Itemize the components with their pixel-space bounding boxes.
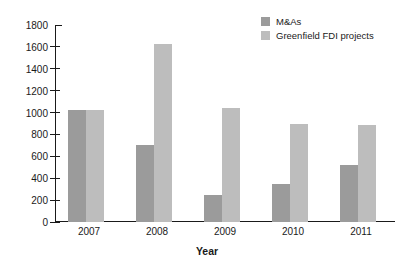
bar-group [259, 25, 327, 222]
bar-group [327, 25, 395, 222]
bar[interactable] [290, 124, 308, 222]
bar-group [123, 25, 191, 222]
x-axis-tick-label: 2011 [327, 226, 395, 237]
bar[interactable] [272, 184, 290, 222]
bar-group [191, 25, 259, 222]
bar[interactable] [136, 145, 154, 222]
y-axis-tick-label: 1200 [26, 85, 48, 96]
y-axis-tick-label: 800 [31, 129, 48, 140]
y-axis-tick-label: 1400 [26, 63, 48, 74]
y-axis-tick-label: 1800 [26, 20, 48, 31]
x-axis-tick-label: 2009 [191, 226, 259, 237]
y-axis-tick-label: 0 [42, 217, 48, 228]
y-axis-tick-label: 400 [31, 173, 48, 184]
bar[interactable] [358, 125, 376, 222]
plot-area: 020040060080010001200140016001800 200720… [55, 25, 395, 222]
y-axis-tick-label: 1000 [26, 107, 48, 118]
bar[interactable] [154, 44, 172, 222]
y-axis-tick-label: 1600 [26, 41, 48, 52]
x-axis-tick-label: 2008 [123, 226, 191, 237]
bar[interactable] [204, 195, 222, 222]
bar-chart: M&AsGreenfield FDI projects 020040060080… [0, 0, 414, 268]
bar[interactable] [222, 108, 240, 222]
bar-group [55, 25, 123, 222]
x-axis-title: Year [0, 245, 414, 257]
bar[interactable] [86, 110, 104, 222]
x-axis-tick-label: 2007 [55, 226, 123, 237]
bar[interactable] [340, 165, 358, 222]
bar[interactable] [68, 110, 86, 222]
y-axis-tick-label: 200 [31, 195, 48, 206]
y-axis-tick-label: 600 [31, 151, 48, 162]
bar-groups: 20072008200920102011 [55, 25, 395, 222]
x-axis-tick-label: 2010 [259, 226, 327, 237]
